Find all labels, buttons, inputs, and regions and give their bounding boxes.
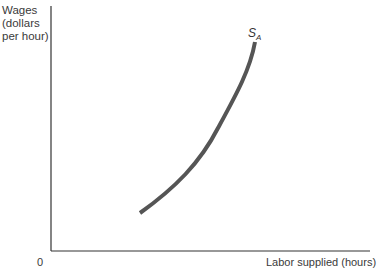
origin-label: 0: [37, 256, 43, 268]
x-axis-label: Labor supplied (hours): [266, 256, 376, 268]
curve-label-subscript: A: [256, 33, 261, 42]
chart-plot: [0, 0, 383, 269]
supply-curve-sa: [140, 42, 255, 213]
curve-label-main: S: [248, 26, 256, 40]
curve-label-sa: SA: [248, 26, 261, 42]
